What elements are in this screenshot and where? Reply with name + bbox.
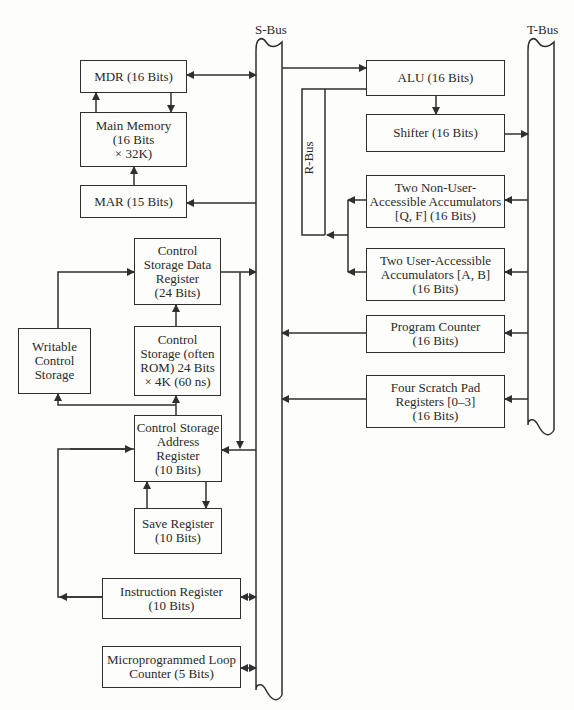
t-bus-label: T-Bus: [527, 22, 558, 38]
mdr-box: MDR (16 Bits): [80, 60, 187, 93]
r-bus-label: R-Bus: [301, 141, 317, 174]
control-storage-data-register-box: Control Storage Data Register (24 Bits): [134, 238, 221, 305]
shifter-box: Shifter (16 Bits): [366, 114, 505, 152]
user-accumulators-box: Two User-Accessible Accumulators [A, B] …: [366, 248, 505, 301]
scratch-pad-registers-box: Four Scratch Pad Registers [0–3] (16 Bit…: [366, 375, 505, 428]
control-storage-address-register-box: Control Storage Address Register (10 Bit…: [134, 415, 222, 482]
writable-control-storage-box: Writable Control Storage: [18, 328, 91, 394]
non-user-accumulators-box: Two Non-User- Accessible Accumulators [Q…: [366, 175, 505, 228]
control-storage-box: Control Storage (often ROM) 24 Bits × 4K…: [134, 326, 221, 396]
instruction-register-box: Instruction Register (10 Bits): [102, 578, 241, 619]
microprogrammed-loop-counter-box: Microprogrammed Loop Counter (5 Bits): [102, 646, 241, 688]
alu-box: ALU (16 Bits): [366, 60, 505, 96]
main-memory-box: Main Memory (16 Bits × 32K): [80, 112, 187, 167]
s-bus-label: S-Bus: [255, 22, 287, 38]
save-register-box: Save Register (10 Bits): [134, 508, 222, 554]
mar-box: MAR (15 Bits): [80, 185, 187, 218]
s-bus: [256, 39, 282, 700]
t-bus: [528, 39, 554, 435]
program-counter-box: Program Counter (16 Bits): [366, 315, 505, 353]
